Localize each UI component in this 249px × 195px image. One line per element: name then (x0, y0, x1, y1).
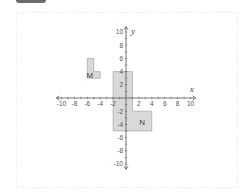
y-axis-label: y (130, 26, 135, 36)
shape-label-m: M (87, 71, 94, 80)
y-tick-label: 10 (116, 28, 124, 35)
x-tick-label: -4 (97, 100, 103, 107)
y-tick-label: 4 (119, 68, 123, 75)
x-tick-label: -8 (72, 100, 78, 107)
y-tick-label: 8 (119, 42, 123, 49)
x-tick-label: -6 (84, 100, 90, 107)
x-axis-label: x (189, 84, 194, 94)
y-tick-label: -8 (117, 147, 123, 154)
y-tick-label: -6 (117, 134, 123, 141)
y-tick-label: -4 (117, 121, 123, 128)
y-tick-label: -2 (117, 108, 123, 115)
x-tick-label: 6 (163, 100, 167, 107)
x-tick-label: 2 (137, 100, 141, 107)
x-tick-label: 4 (150, 100, 154, 107)
x-tick-label: 10 (187, 100, 195, 107)
y-tick-label: 2 (119, 81, 123, 88)
y-tick-label: 6 (119, 55, 123, 62)
x-tick-label: -2 (110, 100, 116, 107)
y-tick-label: -10 (114, 160, 124, 167)
x-tick-label: -10 (57, 100, 67, 107)
coordinate-plane: -10-8-6-4-2246810108642-2-4-6-8-10xyMN (0, 0, 249, 195)
x-tick-label: 8 (176, 100, 180, 107)
shape-label-n: N (139, 118, 145, 127)
